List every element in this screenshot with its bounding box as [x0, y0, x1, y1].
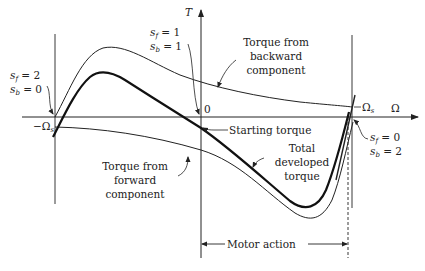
- svg-text:Torque from: Torque from: [102, 160, 168, 172]
- svg-text:sb = 2: sb = 2: [370, 145, 402, 159]
- total-torque-annotation: Total developed torque: [253, 142, 329, 182]
- svg-text:sb = 1: sb = 1: [150, 40, 182, 54]
- slip-label-left: sf = 2 sb = 0: [10, 69, 53, 114]
- svg-text:component: component: [246, 64, 306, 76]
- svg-text:component: component: [105, 188, 165, 200]
- forward-annotation: Torque from forward component: [102, 157, 188, 200]
- torque-speed-diagram: Motor action T Ω 0 −Ωs Ωs sf = 2 sb = 0 …: [0, 0, 425, 271]
- svg-text:forward: forward: [114, 174, 156, 186]
- svg-text:sf = 2: sf = 2: [10, 69, 40, 83]
- backward-annotation: Torque from backward component: [218, 36, 309, 87]
- svg-text:sf = 0: sf = 0: [370, 131, 400, 145]
- neg-sync-label: −Ωs: [33, 120, 55, 134]
- starting-torque-annotation: Starting torque: [203, 124, 311, 136]
- svg-text:Starting torque: Starting torque: [229, 124, 311, 136]
- svg-text:sf = 1: sf = 1: [150, 26, 180, 40]
- svg-text:Torque from: Torque from: [243, 36, 309, 48]
- svg-text:developed: developed: [275, 156, 330, 168]
- slip-label-right: sf = 0 sb = 2: [354, 120, 402, 159]
- torque-axis-label: T: [185, 6, 193, 18]
- motor-action-label: Motor action: [227, 238, 296, 250]
- pos-sync-label: Ωs: [362, 101, 375, 115]
- svg-text:backward: backward: [250, 50, 302, 62]
- origin-label: 0: [204, 103, 211, 115]
- svg-text:Total: Total: [289, 142, 316, 154]
- svg-text:torque: torque: [284, 170, 319, 182]
- svg-text:sb = 0: sb = 0: [10, 83, 42, 97]
- omega-axis-label: Ω: [391, 102, 400, 114]
